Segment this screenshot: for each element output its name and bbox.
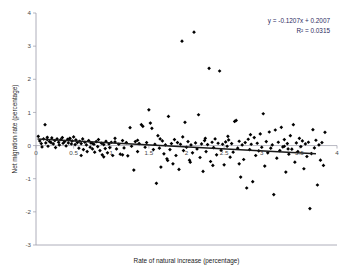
scatter-chart: -3-2-101234 00.511.522.533.54 Rate of na…: [0, 0, 360, 278]
chart-background: [0, 0, 360, 278]
y-tick-label: 3: [28, 42, 32, 49]
x-axis-title: Rate of natural increase (percentage): [134, 257, 240, 265]
x-tick-label: 2: [185, 149, 189, 156]
y-axis-title: Net migration rate (percentage): [11, 85, 19, 174]
y-tick-label: 1: [28, 109, 32, 116]
regression-equation: y = -0.1207x + 0.2007: [268, 17, 331, 25]
r-squared-value: R² = 0.0315: [296, 27, 330, 34]
x-tick-label: 4: [335, 149, 339, 156]
x-tick-label: 0.5: [69, 149, 78, 156]
y-tick-label: -3: [25, 241, 31, 248]
y-tick-label: -2: [25, 208, 31, 215]
chart-canvas: -3-2-101234 00.511.522.533.54 Rate of na…: [0, 0, 360, 278]
y-tick-label: -1: [25, 175, 31, 182]
y-tick-label: 2: [28, 75, 32, 82]
y-tick-label: 0: [28, 142, 32, 149]
y-tick-label: 4: [28, 9, 32, 16]
